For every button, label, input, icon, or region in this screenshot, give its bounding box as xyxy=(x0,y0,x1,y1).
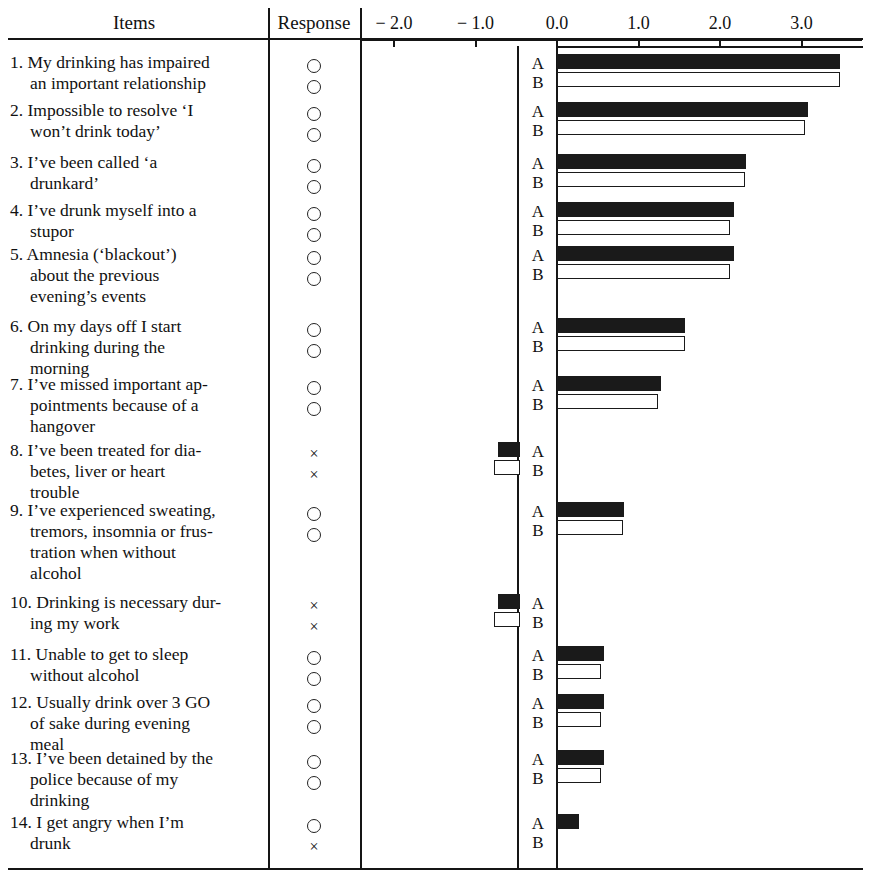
bar-series-b xyxy=(557,336,685,351)
circle-open-icon xyxy=(307,159,321,173)
circle-open-icon xyxy=(307,107,321,121)
series-label-b: B xyxy=(522,613,554,632)
x-tick-mark xyxy=(475,40,477,47)
bar-series-a xyxy=(557,646,604,661)
item-label-line: of sake during evening xyxy=(30,713,280,734)
response-cross-icon: × xyxy=(268,615,360,636)
series-labels: AB xyxy=(522,442,554,480)
circle-open-icon xyxy=(307,344,321,358)
response-cross-icon: × xyxy=(268,442,360,463)
circle-open-icon xyxy=(307,507,321,521)
item-label: 12. Usually drink over 3 GOof sake durin… xyxy=(10,692,280,755)
series-label-a: A xyxy=(522,502,554,521)
series-label-a: A xyxy=(522,54,554,73)
cross-icon: × xyxy=(309,621,318,633)
bar-series-b xyxy=(557,520,623,535)
cross-icon: × xyxy=(309,841,318,853)
circle-open-icon xyxy=(307,251,321,265)
circle-open-icon xyxy=(307,776,321,790)
bar-series-a xyxy=(557,376,661,391)
circle-open-icon xyxy=(307,755,321,769)
bar-series-a xyxy=(498,442,520,457)
response-circle-icon xyxy=(268,339,360,360)
response-circle-icon xyxy=(268,667,360,688)
response-cell xyxy=(268,154,360,196)
response-cell xyxy=(268,694,360,736)
footer-rule xyxy=(8,868,863,870)
series-labels: AB xyxy=(522,102,554,140)
item-label-line: about the previous xyxy=(30,265,280,286)
series-labels: AB xyxy=(522,694,554,732)
series-label-b: B xyxy=(522,265,554,284)
x-tick-label-neg2: − 2.0 xyxy=(375,12,412,34)
series-label-a: A xyxy=(522,646,554,665)
response-cell xyxy=(268,246,360,288)
response-circle-icon xyxy=(268,102,360,123)
response-circle-icon xyxy=(268,123,360,144)
series-label-a: A xyxy=(522,102,554,121)
circle-open-icon xyxy=(307,207,321,221)
item-label-line: 1. My drinking has impaired xyxy=(30,52,280,73)
series-label-a: A xyxy=(522,376,554,395)
response-cell xyxy=(268,102,360,144)
bar-series-a xyxy=(557,102,808,117)
series-label-b: B xyxy=(522,121,554,140)
series-labels: AB xyxy=(522,154,554,192)
item-label-line: 14. I get angry when I’m xyxy=(30,812,280,833)
item-label-line: tration when without xyxy=(30,542,280,563)
response-circle-icon xyxy=(268,814,360,835)
item-label: 14. I get angry when I’mdrunk xyxy=(10,812,280,854)
bar-series-b xyxy=(557,664,601,679)
circle-open-icon xyxy=(307,272,321,286)
circle-open-icon xyxy=(307,720,321,734)
response-circle-icon xyxy=(268,523,360,544)
chart-page: Items Response − 2.0− 1.00.01.02.03.04.0… xyxy=(0,0,871,879)
response-cross-icon: × xyxy=(268,463,360,484)
item-label-line: drunkard’ xyxy=(30,173,280,194)
response-cell: × xyxy=(268,814,360,856)
series-labels: AB xyxy=(522,246,554,284)
item-label-line: 4. I’ve drunk myself into a xyxy=(30,200,280,221)
item-label-line: an important relationship xyxy=(30,73,280,94)
item-label-line: 13. I’ve been detained by the xyxy=(30,748,280,769)
item-label: 13. I’ve been detained by thepolice beca… xyxy=(10,748,280,811)
item-label-line: 3. I’ve been called ‘a xyxy=(30,152,280,173)
series-label-a: A xyxy=(522,814,554,833)
series-labels: AB xyxy=(522,814,554,852)
bar-series-a xyxy=(557,750,604,765)
series-label-a: A xyxy=(522,318,554,337)
circle-open-icon xyxy=(307,59,321,73)
series-label-a: A xyxy=(522,750,554,769)
bar-series-b xyxy=(557,768,601,783)
response-cell xyxy=(268,750,360,792)
circle-open-icon xyxy=(307,402,321,416)
item-label: 4. I’ve drunk myself into astupor xyxy=(10,200,280,242)
x-tick-mark xyxy=(719,40,721,47)
series-labels: AB xyxy=(522,646,554,684)
circle-open-icon xyxy=(307,381,321,395)
series-label-b: B xyxy=(522,665,554,684)
response-circle-icon xyxy=(268,267,360,288)
response-circle-icon xyxy=(268,223,360,244)
series-label-b: B xyxy=(522,769,554,788)
series-labels: AB xyxy=(522,594,554,632)
cross-icon: × xyxy=(309,448,318,460)
zero-baseline xyxy=(556,46,558,868)
item-label: 1. My drinking has impairedan important … xyxy=(10,52,280,94)
series-label-b: B xyxy=(522,337,554,356)
response-circle-icon xyxy=(268,175,360,196)
series-labels: AB xyxy=(522,502,554,540)
bar-series-a xyxy=(498,594,520,609)
circle-open-icon xyxy=(307,228,321,242)
response-cross-icon: × xyxy=(268,835,360,856)
x-tick-label-2: 2.0 xyxy=(709,12,732,34)
response-cell: ×× xyxy=(268,442,360,484)
response-circle-icon xyxy=(268,646,360,667)
response-circle-icon xyxy=(268,715,360,736)
item-label-line: 5. Amnesia (‘blackout’) xyxy=(30,244,280,265)
series-labels: AB xyxy=(522,376,554,414)
x-tick-label-neg1: − 1.0 xyxy=(457,12,494,34)
item-label-line: ing my work xyxy=(30,613,280,634)
bar-series-b xyxy=(557,394,658,409)
series-label-a: A xyxy=(522,246,554,265)
